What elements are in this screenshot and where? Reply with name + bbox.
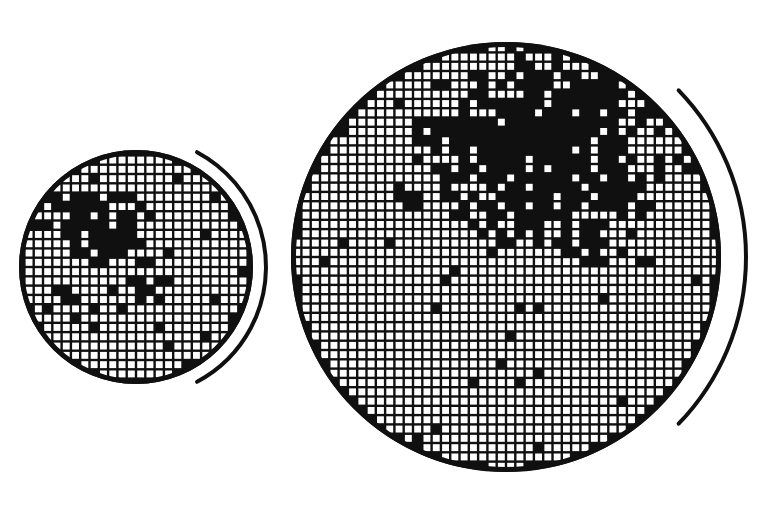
wafer-defect-map-figure: [0, 0, 781, 509]
